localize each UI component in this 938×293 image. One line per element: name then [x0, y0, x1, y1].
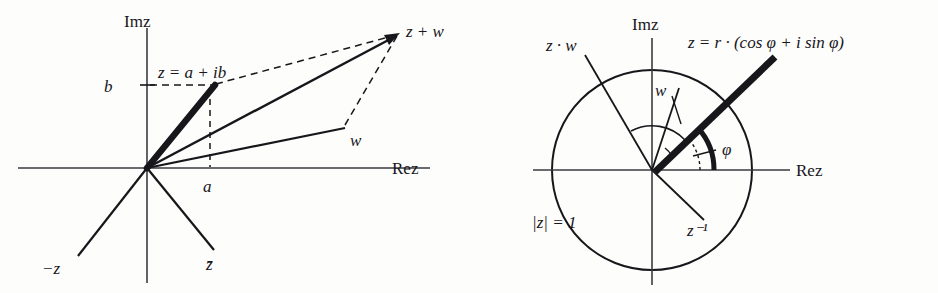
unit-circle-label: |z| = 1	[532, 213, 576, 232]
complex-plane-figure: Imz Rez z = a + ib z + w w −z z̄ b a	[0, 0, 938, 293]
left-neg-z-label: −z	[42, 259, 60, 278]
left-tick-b-label: b	[104, 77, 113, 96]
left-tick-a-label: a	[203, 177, 212, 196]
right-ray-z-inverse	[652, 170, 704, 220]
right-phi-label: φ	[722, 140, 731, 159]
left-imag-axis-label: Imz	[124, 12, 151, 31]
right-ray-z-times-w	[585, 55, 652, 170]
w-leader-line	[672, 96, 681, 124]
left-z-label: z = a + ib	[157, 63, 226, 82]
right-polar-panel: Imz Rez z = r · (cos φ + i sin φ) z · w …	[532, 15, 844, 285]
left-arrowhead-z-plus-w	[384, 33, 400, 45]
inner-angle-arc	[631, 126, 685, 140]
left-real-axis-label: Rez	[392, 159, 419, 178]
right-product-label: z · w	[545, 36, 577, 55]
left-conj-z-label: z̄	[205, 255, 213, 274]
right-imag-axis-label: Imz	[632, 15, 659, 34]
right-w-label: w	[655, 81, 667, 100]
left-ray-neg-z	[78, 168, 147, 256]
left-dashed-z-to-sum	[216, 35, 396, 84]
phi-arc	[698, 128, 714, 170]
left-z-sum-label: z + w	[405, 22, 445, 41]
right-polar-form-label: z = r · (cos φ + i sin φ)	[687, 33, 844, 52]
right-vector-z	[655, 57, 775, 172]
left-cartesian-panel: Imz Rez z = a + ib z + w w −z z̄ b a	[18, 12, 445, 283]
left-w-label: w	[350, 131, 362, 150]
figure-root: Imz Rez z = a + ib z + w w −z z̄ b a	[0, 0, 938, 293]
right-real-axis-label: Rez	[796, 161, 823, 180]
right-inverse-label: z⁻¹	[686, 221, 708, 240]
